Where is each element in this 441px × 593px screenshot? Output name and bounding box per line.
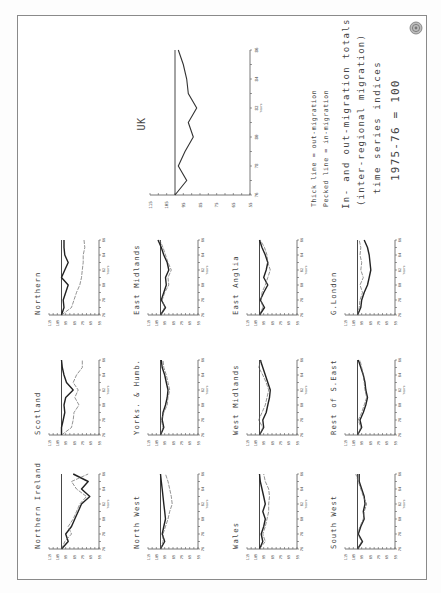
value-tick-label: 95 (64, 321, 68, 325)
value-tick-label: 55 (98, 441, 102, 445)
value-tick-label: 115 (48, 440, 52, 447)
time-tick-label: 86 (201, 238, 205, 242)
time-tick-label: 78 (300, 532, 304, 536)
value-tick-label: 85 (369, 321, 373, 325)
panel-northern-ireland: Northern Ireland115105958575655576788082… (33, 462, 110, 560)
value-tick-label: 75 (279, 441, 283, 445)
legend-pecked-line: Pecked line = in-migration (322, 90, 330, 207)
time-tick-label: 86 (254, 47, 259, 53)
panel-title: Wales (231, 522, 240, 549)
value-tick-label: 105 (352, 554, 356, 561)
time-tick-label: 78 (398, 532, 402, 536)
value-tick-label: 75 (377, 555, 381, 559)
value-tick-label: 115 (148, 201, 153, 209)
time-tick-label: 78 (201, 532, 205, 536)
time-tick-label: 76 (201, 433, 205, 437)
value-tick-label: 75 (377, 321, 381, 325)
series-out-migration (358, 474, 366, 549)
time-tick-label: 84 (398, 253, 402, 257)
page: Thick line = out-migration Pecked line =… (0, 0, 441, 593)
time-tick-label: 84 (201, 487, 205, 491)
value-tick-label: 115 (246, 554, 250, 561)
panel-rest-of-s-east: Rest of S.East11510595857565557678808284… (329, 358, 406, 446)
time-tick-label: 84 (398, 373, 402, 377)
value-tick-label: 95 (360, 321, 364, 325)
value-tick-label: 85 (271, 441, 275, 445)
value-tick-label: 75 (214, 202, 219, 208)
time-tick-label: 76 (300, 433, 304, 437)
value-tick-label: 105 (254, 554, 258, 561)
time-tick-label: 80 (398, 283, 402, 287)
time-axis-label: Years (259, 103, 263, 112)
value-tick-label: 75 (180, 321, 184, 325)
value-tick-label: 105 (155, 320, 159, 327)
value-tick-label: 115 (147, 440, 151, 447)
time-tick-label: 86 (398, 472, 402, 476)
value-tick-label: 115 (344, 554, 348, 561)
value-tick-label: 115 (48, 554, 52, 561)
series-out-migration (175, 50, 197, 195)
legend-title-line1: In- and out-migration totals (341, 18, 351, 209)
time-tick-label: 76 (398, 313, 402, 317)
time-tick-label: 76 (201, 547, 205, 551)
value-tick-label: 115 (246, 440, 250, 447)
time-tick-label: 84 (300, 253, 304, 257)
value-tick-label: 65 (89, 555, 93, 559)
time-axis-label: Years (106, 265, 110, 274)
time-axis-label: Years (402, 265, 406, 274)
time-axis-label: Years (205, 265, 209, 274)
value-tick-label: 85 (73, 555, 77, 559)
time-tick-label: 76 (254, 192, 259, 198)
series-out-migration (260, 240, 268, 315)
series-out-migration (260, 474, 266, 549)
value-tick-label: 75 (81, 441, 85, 445)
panel-south-west: South West1151059585756555767880828486Ye… (329, 472, 406, 560)
series-out-migration (62, 474, 90, 549)
value-tick-label: 65 (385, 555, 389, 559)
value-tick-label: 105 (155, 440, 159, 447)
value-tick-label: 65 (89, 441, 93, 445)
value-tick-label: 85 (172, 555, 176, 559)
value-tick-label: 75 (279, 321, 283, 325)
value-tick-label: 75 (180, 555, 184, 559)
value-tick-label: 55 (197, 321, 201, 325)
time-axis-label: Years (304, 265, 308, 274)
time-axis-label: Years (402, 385, 406, 394)
time-tick-label: 78 (254, 163, 259, 169)
time-tick-label: 80 (398, 517, 402, 521)
value-tick-label: 55 (394, 321, 398, 325)
value-tick-label: 55 (98, 321, 102, 325)
legend-thick-line: Thick line = out-migration (310, 90, 318, 207)
value-tick-label: 85 (73, 441, 77, 445)
time-tick-label: 80 (102, 403, 106, 407)
panel-title: UK (136, 117, 147, 130)
time-axis-label: Years (205, 385, 209, 394)
panel-title: Northern Ireland (33, 462, 42, 549)
time-tick-label: 84 (300, 487, 304, 491)
value-tick-label: 95 (360, 441, 364, 445)
value-tick-label: 75 (180, 441, 184, 445)
time-axis-label: Years (106, 385, 110, 394)
value-tick-label: 95 (163, 321, 167, 325)
panel-wales: Wales1151059585756555767880828486Years (231, 472, 308, 560)
panel-yorks-humb: Yorks. & Humb.11510595857565557678808284… (132, 358, 209, 446)
value-tick-label: 95 (360, 555, 364, 559)
time-tick-label: 86 (102, 472, 106, 476)
value-tick-label: 65 (385, 441, 389, 445)
value-tick-label: 105 (164, 201, 169, 209)
value-tick-label: 65 (287, 441, 291, 445)
series-out-migration (358, 360, 368, 435)
panel-title: East Anglia (231, 255, 240, 315)
time-tick-label: 86 (300, 472, 304, 476)
time-tick-label: 84 (102, 487, 106, 491)
crest-emblem-icon (410, 22, 422, 34)
value-tick-label: 55 (197, 441, 201, 445)
value-tick-label: 85 (369, 555, 373, 559)
value-tick-label: 115 (344, 320, 348, 327)
panel-title: West Midlands (231, 364, 240, 435)
time-tick-label: 78 (201, 298, 205, 302)
value-tick-label: 105 (155, 554, 159, 561)
time-tick-label: 84 (201, 373, 205, 377)
value-tick-label: 85 (172, 321, 176, 325)
time-tick-label: 78 (201, 418, 205, 422)
